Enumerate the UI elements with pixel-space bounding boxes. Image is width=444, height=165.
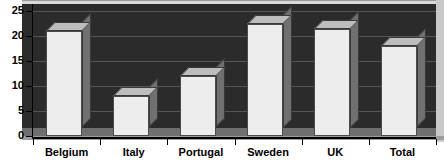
x-axis-label-total: Total — [369, 146, 436, 159]
bar-uk — [314, 20, 350, 137]
y-tick-mark-25 — [26, 11, 32, 12]
x-tick-mark-1 — [100, 139, 101, 145]
x-axis-label-belgium: Belgium — [33, 146, 100, 159]
x-tick-mark-end — [436, 139, 437, 145]
x-axis-label-sweden: Sweden — [235, 146, 302, 159]
bar-front-face — [247, 24, 283, 137]
plot-area — [33, 4, 436, 136]
gridline-5 — [33, 111, 436, 112]
y-tick-label-10: 10 — [0, 80, 24, 90]
y-axis-line — [32, 4, 33, 138]
gridline-10 — [33, 86, 436, 87]
x-tick-mark-4 — [302, 139, 303, 145]
bar-portugal — [180, 67, 216, 136]
bar-side-face — [350, 11, 359, 128]
bar-side-face — [283, 6, 292, 128]
y-tick-label-15: 15 — [0, 55, 24, 65]
y-tick-mark-20 — [26, 36, 32, 37]
y-tick-mark-15 — [26, 61, 32, 62]
bar-front-face — [46, 31, 82, 136]
x-tick-mark-3 — [235, 139, 236, 145]
y-tick-label-25: 25 — [0, 5, 24, 15]
y-tick-label-20: 20 — [0, 30, 24, 40]
bar-front-face — [180, 76, 216, 136]
y-tick-mark-5 — [26, 111, 32, 112]
x-tick-mark-5 — [369, 139, 370, 145]
chart-frame-right-edge — [436, 0, 444, 142]
x-axis-label-italy: Italy — [100, 146, 167, 159]
y-tick-label-5: 5 — [0, 105, 24, 115]
bar-italy — [113, 87, 149, 136]
x-axis-line — [32, 137, 436, 139]
x-axis-label-uk: UK — [302, 146, 369, 159]
gridline-15 — [33, 61, 436, 62]
bar-front-face — [113, 96, 149, 136]
gridline-25 — [33, 11, 436, 12]
bar-belgium — [46, 22, 82, 136]
x-axis-label-portugal: Portugal — [167, 146, 234, 159]
x-tick-mark-2 — [167, 139, 168, 145]
y-tick-mark-10 — [26, 86, 32, 87]
x-tick-mark-0 — [33, 139, 34, 145]
gridline-20 — [33, 36, 436, 37]
y-tick-mark-0 — [26, 136, 32, 137]
bar-side-face — [82, 13, 91, 127]
bar-sweden — [247, 15, 283, 137]
bar-front-face — [381, 46, 417, 136]
y-tick-label-0: 0 — [0, 130, 24, 140]
bar-front-face — [314, 29, 350, 137]
bar-total — [381, 37, 417, 136]
bar-chart: 0510152025 BelgiumItalyPortugalSwedenUKT… — [0, 0, 444, 165]
